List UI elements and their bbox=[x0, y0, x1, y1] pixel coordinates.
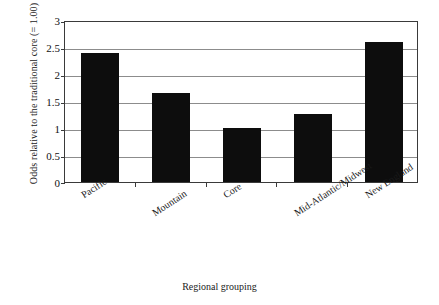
y-axis-tick-mark bbox=[61, 49, 65, 50]
x-axis-title: Regional grouping bbox=[0, 281, 439, 292]
bar bbox=[223, 128, 261, 182]
bar-chart-figure: Odds relative to the traditional core (=… bbox=[0, 0, 439, 305]
y-axis-tick-mark bbox=[61, 22, 65, 23]
bar bbox=[365, 42, 403, 182]
y-axis-tick-label: 2.5 bbox=[26, 43, 60, 54]
y-axis-tick-mark bbox=[61, 157, 65, 158]
x-axis-tick-label: Mountain bbox=[150, 188, 189, 218]
y-axis-tick-label: 0.5 bbox=[26, 151, 60, 162]
y-axis-tick-mark bbox=[61, 103, 65, 104]
y-axis-tick-label: 1.5 bbox=[26, 97, 60, 108]
x-axis-tick-label: Core bbox=[221, 180, 243, 200]
bars-group bbox=[65, 22, 417, 182]
y-axis-tick-label: 1 bbox=[26, 124, 60, 135]
bar bbox=[152, 93, 190, 182]
x-axis-tick-labels: PacificMountainCoreMid-Atlantic/MidwestN… bbox=[0, 183, 439, 268]
y-axis-tick-label: 3 bbox=[26, 16, 60, 27]
y-axis-tick-labels: 32.521.510.50 bbox=[26, 21, 60, 183]
plot-area bbox=[64, 21, 418, 183]
y-axis-tick-mark bbox=[61, 76, 65, 77]
y-axis-tick-mark bbox=[61, 130, 65, 131]
bar bbox=[294, 114, 332, 182]
y-axis-tick-label: 2 bbox=[26, 70, 60, 81]
bar bbox=[81, 53, 119, 182]
